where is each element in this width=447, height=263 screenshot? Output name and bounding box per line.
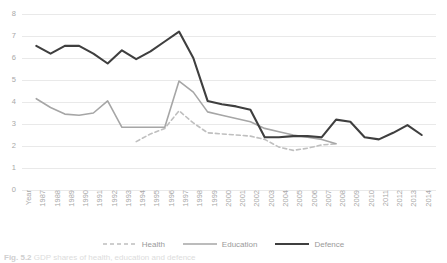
y-axis-tick-label: 8: [0, 10, 16, 18]
x-axis-tick-label: 2006: [311, 190, 319, 207]
x-axis-tick-label: 2004: [282, 190, 290, 207]
series-line-health: [136, 111, 336, 151]
series-lines: [22, 14, 436, 190]
y-axis-tick-label: 3: [0, 120, 16, 128]
x-axis-tick-label: 1990: [82, 190, 90, 207]
legend-label: Education: [222, 240, 258, 249]
legend-item-health[interactable]: Health: [103, 240, 165, 249]
legend-label: Defence: [314, 240, 344, 249]
x-axis-tick-label: 1998: [196, 190, 204, 207]
y-axis-tick-label: 5: [0, 76, 16, 84]
x-axis-tick-label: 1992: [111, 190, 119, 207]
legend-item-defence[interactable]: Defence: [275, 240, 344, 249]
x-axis-tick-label: 2013: [410, 190, 418, 207]
x-axis-tick-label: 1993: [125, 190, 133, 207]
legend-swatch-defence: [275, 240, 309, 248]
x-axis-tick-label: 2014: [425, 190, 433, 207]
y-axis-tick-label: 0: [0, 186, 16, 194]
chart-container: 012345678 Year19871988198919901991199219…: [0, 0, 447, 263]
x-axis-tick-label: 1995: [153, 190, 161, 207]
x-axis-labels: Year198719881989199019911992199319941995…: [22, 190, 436, 236]
x-axis-tick-label: 1989: [68, 190, 76, 207]
legend-label: Health: [142, 240, 165, 249]
y-axis-tick-label: 7: [0, 32, 16, 40]
y-axis-tick-label: 1: [0, 164, 16, 172]
x-axis-tick-label: 2012: [396, 190, 404, 207]
x-axis-tick-label: 2005: [296, 190, 304, 207]
plot-area: [22, 14, 436, 190]
legend-swatch-health: [103, 240, 137, 248]
series-line-education: [36, 81, 336, 144]
figure-caption: Fig. 5.2 GDP shares of health, education…: [4, 253, 444, 262]
y-axis-tick-label: 6: [0, 54, 16, 62]
x-axis-tick-label: 1999: [211, 190, 219, 207]
x-axis-tick-label: 2001: [239, 190, 247, 207]
x-axis-tick-label: 2009: [353, 190, 361, 207]
x-axis-tick-label: 2010: [368, 190, 376, 207]
legend-item-education[interactable]: Education: [183, 240, 258, 249]
y-axis-ticks: 012345678: [0, 0, 22, 190]
x-axis-tick-label: 2003: [268, 190, 276, 207]
x-axis-tick-label: 1988: [54, 190, 62, 207]
x-axis-tick-label: 1987: [39, 190, 47, 207]
y-axis-tick-label: 2: [0, 142, 16, 150]
x-axis-tick-label: 1997: [182, 190, 190, 207]
legend-swatch-education: [183, 240, 217, 248]
x-axis-tick-label: 1991: [96, 190, 104, 207]
figure-number: Fig. 5.2: [4, 253, 32, 262]
x-axis-title: Year: [25, 190, 33, 205]
x-axis-tick-label: 2002: [253, 190, 261, 207]
figure-caption-text: GDP shares of health, education and defe…: [34, 253, 196, 262]
x-axis-tick-label: 2000: [225, 190, 233, 207]
x-axis-tick-label: 2011: [382, 190, 390, 206]
x-axis-tick-label: 1996: [168, 190, 176, 207]
x-axis-tick-label: 1994: [139, 190, 147, 207]
x-axis-tick-label: 2008: [339, 190, 347, 207]
y-axis-tick-label: 4: [0, 98, 16, 106]
chart-legend: HealthEducationDefence: [0, 236, 447, 252]
x-axis-tick-label: 2007: [325, 190, 333, 207]
series-line-defence: [36, 32, 421, 140]
